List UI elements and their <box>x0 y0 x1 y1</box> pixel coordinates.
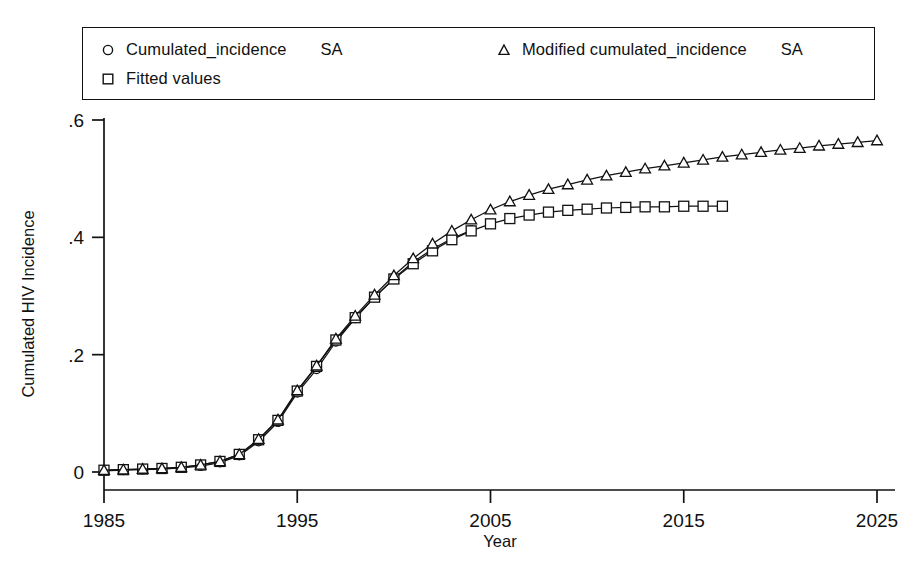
x-tick-label-0: 1985 <box>83 510 125 531</box>
data-point-triangle <box>504 196 515 206</box>
data-point-square <box>563 205 573 215</box>
data-point-square <box>505 214 515 224</box>
y-tick-label-3: .6 <box>68 110 84 131</box>
y-tick-label-1: .2 <box>68 345 84 366</box>
data-point-square <box>582 204 592 214</box>
data-point-triangle <box>446 225 457 235</box>
x-tick-label-1: 1995 <box>276 510 318 531</box>
data-point-square <box>601 203 611 213</box>
plot-area: 0.2.4.6 19851995200520152025 Year Cumula… <box>0 0 924 583</box>
series-square <box>99 201 727 475</box>
data-point-triangle <box>872 135 883 145</box>
x-axis-ticks: 19851995200520152025 <box>83 490 898 531</box>
x-tick-label-3: 2015 <box>663 510 705 531</box>
data-point-square <box>466 226 476 236</box>
x-axis-title: Year <box>483 532 517 550</box>
chart-figure: Cumulated_incidence SA Fitted values Mod… <box>0 0 924 583</box>
axes <box>104 118 895 490</box>
data-point-square <box>717 201 727 211</box>
data-point-triangle <box>408 253 419 263</box>
data-point-triangle <box>427 238 438 248</box>
x-tick-label-4: 2025 <box>856 510 898 531</box>
data-point-square <box>543 207 553 217</box>
data-point-triangle <box>485 204 496 214</box>
data-point-triangle <box>466 214 477 224</box>
y-tick-label-2: .4 <box>68 227 84 248</box>
data-point-square <box>659 202 669 212</box>
x-tick-label-2: 2005 <box>469 510 511 531</box>
data-series-group <box>99 135 883 475</box>
data-point-square <box>698 201 708 211</box>
data-point-square <box>640 202 650 212</box>
data-point-square <box>524 210 534 220</box>
data-point-square <box>679 201 689 211</box>
series-circle <box>100 226 476 475</box>
series-line-square <box>104 206 722 470</box>
data-point-square <box>621 202 631 212</box>
y-axis-ticks: 0.2.4.6 <box>68 110 104 483</box>
data-point-square <box>486 219 496 229</box>
y-tick-label-0: 0 <box>73 462 84 483</box>
data-point-square <box>447 235 457 245</box>
y-axis-title: Cumulated HIV Incidence <box>19 210 37 397</box>
series-triangle <box>99 135 883 474</box>
series-line-triangle <box>104 141 877 471</box>
